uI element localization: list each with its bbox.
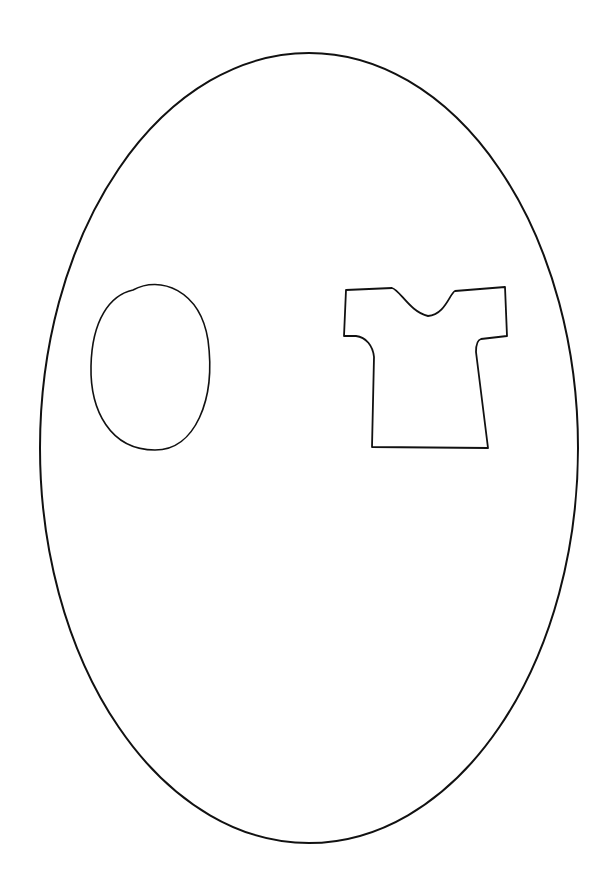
small-oval-outline xyxy=(91,284,210,450)
t-shirt-icon xyxy=(344,287,507,448)
large-egg-outline xyxy=(40,53,578,843)
drawing-canvas xyxy=(0,0,607,887)
